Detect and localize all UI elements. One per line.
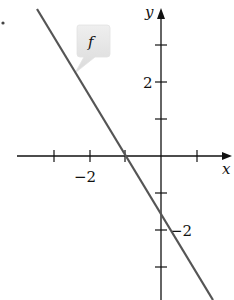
y-axis: 2 −2 y [143,3,192,300]
marker-dot [1,21,4,24]
function-callout: f [75,25,110,73]
y-tick-label-2: 2 [143,74,153,92]
x-tick-label-neg2: −2 [74,168,96,186]
x-axis-label: x [222,160,231,178]
y-tick-label-neg2: −2 [170,222,192,240]
y-axis-label: y [144,3,154,21]
y-axis-arrow-icon [157,8,165,19]
function-graph: f −2 x 2 −2 y [0,0,234,300]
series-line-f [37,9,213,300]
x-axis-arrow-icon [222,152,232,160]
